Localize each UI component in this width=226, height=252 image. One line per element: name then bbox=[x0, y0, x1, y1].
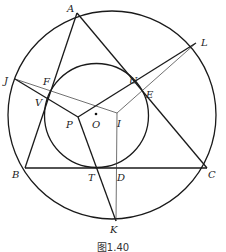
label-P: P bbox=[65, 119, 73, 130]
label-I: I bbox=[116, 118, 122, 129]
geometry-figure: A L J F U E V P O I B T D C K 图1.40 bbox=[0, 0, 226, 252]
label-O: O bbox=[92, 119, 100, 130]
circumcircle bbox=[8, 11, 216, 219]
label-J: J bbox=[2, 75, 9, 86]
label-T: T bbox=[88, 172, 96, 183]
segment-IK bbox=[116, 113, 117, 221]
label-E: E bbox=[145, 89, 154, 100]
label-C: C bbox=[208, 169, 216, 180]
label-A: A bbox=[66, 3, 74, 14]
segment-IJ bbox=[15, 79, 117, 113]
segment-AB bbox=[25, 13, 77, 168]
center-point-O bbox=[95, 113, 98, 116]
label-B: B bbox=[11, 169, 19, 180]
label-F: F bbox=[42, 76, 51, 87]
segment-PK bbox=[78, 117, 116, 221]
label-K: K bbox=[109, 224, 118, 235]
figure-caption: 图1.40 bbox=[97, 242, 129, 252]
label-L: L bbox=[200, 37, 208, 48]
label-D: D bbox=[116, 172, 125, 183]
label-U: U bbox=[129, 75, 138, 86]
label-V: V bbox=[35, 97, 44, 108]
